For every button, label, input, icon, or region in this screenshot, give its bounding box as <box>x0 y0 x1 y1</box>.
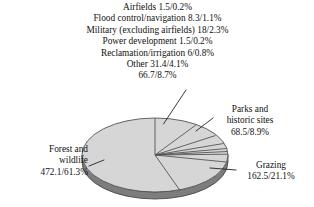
label-forest-line1: Forest and <box>10 144 88 155</box>
callout-airfields: Airfields 1.5/0.2% <box>50 2 265 13</box>
callout-other: Other 31.4/4.1% <box>50 59 265 70</box>
label-parks-line2: historic sites <box>214 115 286 126</box>
label-forest-line2: wildlife <box>10 155 88 166</box>
label-parks-line1: Parks and <box>214 104 286 115</box>
callout-military: Military (excluding airfields) 18/2.3% <box>50 25 265 36</box>
callout-power-development: Power development 1.5/0.2% <box>50 36 265 47</box>
small-slice-callout-list: Airfields 1.5/0.2% Flood control/navigat… <box>50 2 265 82</box>
label-forest-and-wildlife: Forest and wildlife 472.1/61.3% <box>10 144 88 178</box>
label-parks-value: 68.5/8.9% <box>214 127 286 138</box>
label-grazing-name: Grazing <box>236 160 306 171</box>
label-grazing: Grazing 162.5/21.1% <box>236 160 306 183</box>
pie-chart-figure: Airfields 1.5/0.2% Flood control/navigat… <box>0 0 314 207</box>
label-parks-and-historic-sites: Parks and historic sites 68.5/8.9% <box>214 104 286 138</box>
callout-flood-control: Flood control/navigation 8.3/1.1% <box>50 13 265 24</box>
label-forest-value: 472.1/61.3% <box>10 167 88 178</box>
callout-small-slices-total: 66.7/8.7% <box>50 70 265 81</box>
label-grazing-value: 162.5/21.1% <box>236 171 306 182</box>
callout-reclamation-irrigation: Reclamation/irrigation 6/0.8% <box>50 48 265 59</box>
